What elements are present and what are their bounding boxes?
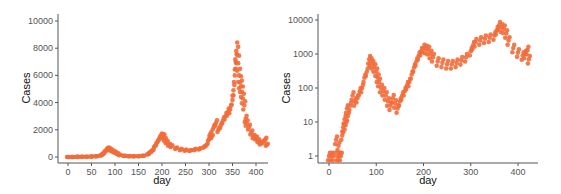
- data-point: [250, 128, 255, 133]
- data-point: [210, 133, 215, 138]
- data-point: [376, 72, 381, 77]
- data-point: [237, 53, 242, 58]
- data-point: [399, 97, 404, 102]
- data-point: [455, 57, 460, 62]
- data-point: [387, 108, 392, 113]
- data-point: [248, 122, 253, 127]
- y-ticks: 110100100010000: [288, 15, 318, 161]
- y-tick-label: 100: [298, 83, 313, 93]
- data-point: [439, 65, 444, 70]
- y-tick-label: 8000: [33, 43, 53, 53]
- data-point: [236, 61, 241, 66]
- data-point: [391, 93, 396, 98]
- log-chart: 110100100010000 0100200300400 day Cases: [280, 14, 538, 186]
- data-point: [235, 40, 240, 45]
- data-point: [339, 150, 344, 155]
- x-tick-label: 50: [86, 167, 96, 177]
- y-tick-label: 10000: [28, 16, 53, 26]
- data-point: [230, 93, 235, 98]
- data-point: [243, 99, 248, 104]
- data-point: [430, 59, 435, 64]
- x-axis-label: day: [419, 174, 437, 186]
- data-point: [515, 55, 520, 60]
- data-point: [432, 52, 437, 57]
- x-tick-label: 100: [369, 167, 384, 177]
- data-point: [449, 66, 454, 71]
- data-point: [434, 63, 439, 68]
- x-tick-label: 400: [510, 167, 525, 177]
- y-tick-label: 2000: [33, 125, 53, 135]
- data-point: [397, 103, 402, 108]
- data-point: [242, 103, 247, 108]
- x-tick-label: 300: [463, 167, 478, 177]
- y-axis-label: Cases: [280, 72, 292, 104]
- data-point: [345, 118, 350, 123]
- data-point: [463, 59, 468, 64]
- data-point: [505, 42, 510, 47]
- data-point: [338, 158, 343, 163]
- data-point: [384, 90, 389, 95]
- data-point: [528, 54, 533, 59]
- y-axis-label: Cases: [20, 72, 32, 104]
- data-point: [468, 53, 473, 58]
- data-point: [413, 63, 418, 68]
- data-point: [382, 86, 387, 91]
- y-tick-label: 10000: [288, 15, 313, 25]
- data-point: [265, 141, 270, 146]
- data-point: [522, 56, 527, 61]
- data-point: [233, 73, 238, 78]
- data-point: [526, 45, 531, 50]
- data-point: [491, 37, 496, 42]
- data-point: [230, 98, 235, 103]
- data-point: [512, 42, 517, 47]
- data-point: [446, 59, 451, 64]
- data-point: [477, 42, 482, 47]
- data-point: [245, 118, 250, 123]
- data-point: [244, 114, 249, 119]
- figure: 0200040006000800010000 05010015020025030…: [0, 0, 561, 194]
- y-tick-label: 0: [48, 152, 53, 162]
- data-point: [234, 49, 239, 54]
- data-point: [373, 62, 378, 67]
- data-point: [241, 84, 246, 89]
- data-point: [347, 108, 352, 113]
- data-point: [170, 143, 175, 148]
- data-point: [229, 102, 234, 107]
- data-point: [378, 76, 383, 81]
- y-ticks: 0200040006000800010000: [28, 16, 58, 162]
- data-points: [65, 40, 270, 159]
- data-point: [394, 110, 399, 115]
- data-point: [493, 32, 498, 37]
- data-point: [416, 58, 421, 63]
- x-tick-label: 150: [131, 167, 146, 177]
- data-point: [441, 57, 446, 62]
- x-tick-label: 350: [225, 167, 240, 177]
- data-point: [502, 23, 507, 28]
- data-point: [241, 107, 246, 112]
- data-point: [526, 61, 531, 66]
- x-tick-label: 300: [201, 167, 216, 177]
- data-point: [427, 45, 432, 50]
- data-point: [458, 62, 463, 67]
- data-point: [436, 56, 441, 61]
- data-point: [231, 88, 236, 93]
- data-point: [215, 118, 220, 123]
- data-point: [339, 137, 344, 142]
- y-tick-label: 6000: [33, 70, 53, 80]
- y-tick-label: 1: [308, 151, 313, 161]
- data-point: [444, 66, 449, 71]
- data-point: [239, 74, 244, 79]
- x-tick-label: 100: [107, 167, 122, 177]
- data-point: [453, 65, 458, 70]
- data-point: [406, 84, 411, 89]
- x-tick-label: 0: [65, 167, 70, 177]
- data-point: [361, 80, 366, 85]
- x-tick-label: 0: [326, 167, 331, 177]
- y-tick-label: 4000: [33, 98, 53, 108]
- data-point: [375, 66, 380, 71]
- data-point: [510, 50, 515, 55]
- x-tick-label: 250: [178, 167, 193, 177]
- data-point: [364, 74, 369, 79]
- linear-chart: 0200040006000800010000 05010015020025030…: [20, 14, 270, 186]
- data-point: [240, 78, 245, 83]
